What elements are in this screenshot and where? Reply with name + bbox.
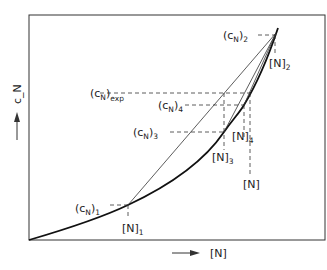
label-cN4: (cN)4 bbox=[158, 99, 183, 114]
label-cN3: (cN)3 bbox=[133, 126, 158, 141]
y-axis-label: c_N bbox=[11, 84, 24, 104]
label-cN2: (cN)2 bbox=[223, 29, 248, 44]
y-axis-arrow-icon bbox=[14, 112, 20, 122]
label-N3: [N]3 bbox=[212, 151, 234, 166]
label-N4: [N]4 bbox=[232, 130, 254, 145]
x-axis-arrow-icon bbox=[190, 250, 200, 256]
x-axis-label: [N] bbox=[210, 247, 227, 260]
label-cN1: (cN)1 bbox=[75, 202, 100, 217]
label-N2: [N]2 bbox=[269, 57, 291, 72]
plot-frame bbox=[29, 15, 325, 240]
label-N1: [N]1 bbox=[122, 222, 144, 237]
label-cNexp: (cN)exp bbox=[90, 87, 124, 103]
label-N: [N] bbox=[243, 178, 260, 191]
diagram-canvas: (cN)1 [N]1 (cN)2 [N]2 (cN)exp (cN)4 (cN)… bbox=[0, 0, 327, 270]
